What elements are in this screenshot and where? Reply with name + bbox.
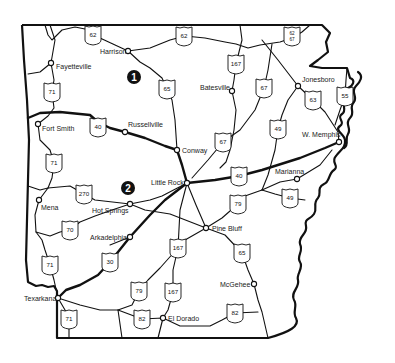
city-dot-icon (203, 225, 208, 230)
city-label: Russellville (128, 121, 163, 128)
city-arkadelphia: Arkadelphia (90, 234, 133, 242)
svg-text:71: 71 (51, 159, 58, 166)
svg-text:67: 67 (220, 138, 227, 145)
route-shield-icon: 49 (270, 120, 286, 139)
city-dot-icon (35, 121, 40, 126)
svg-text:49: 49 (287, 194, 294, 201)
route-shield-icon: 71 (46, 154, 62, 173)
svg-text:270: 270 (79, 190, 90, 197)
city-dot-icon (127, 201, 132, 206)
city-mcgehee: McGehee (220, 281, 257, 288)
svg-text:55: 55 (342, 92, 349, 99)
city-label: Arkadelphia (90, 234, 127, 242)
route-shield-icon: 62 (85, 26, 101, 45)
svg-text:62: 62 (90, 31, 97, 38)
svg-text:65: 65 (239, 249, 246, 256)
svg-text:79: 79 (235, 200, 242, 207)
city-harrison: Harrison (100, 48, 131, 55)
city-label: Jonesboro (302, 76, 335, 83)
route-shield-icon: 40 (231, 167, 247, 186)
city-texarkana: Texarkana (24, 295, 61, 302)
svg-text:67: 67 (289, 37, 295, 42)
city-dot-icon (174, 147, 179, 152)
svg-text:49: 49 (275, 125, 282, 132)
route-shield-icon: 79 (230, 195, 246, 214)
svg-text:40: 40 (236, 172, 243, 179)
svg-text:71: 71 (66, 315, 73, 322)
city-dot-icon (36, 197, 41, 202)
svg-text:30: 30 (107, 258, 114, 265)
city-dot-icon (184, 180, 189, 185)
city-label: Hot Springs (92, 207, 129, 215)
svg-text:62: 62 (181, 32, 188, 39)
city-label: El Dorado (168, 315, 199, 322)
svg-text:82: 82 (232, 309, 239, 316)
city-marianna: Marianna (275, 168, 304, 182)
city-fort-smith: Fort Smith (35, 121, 74, 132)
svg-text:62: 62 (289, 31, 295, 36)
city-label: Pine Bluff (212, 225, 242, 232)
cities: HarrisonFayettevilleBatesvilleJonesboroF… (24, 48, 342, 322)
svg-text:71: 71 (49, 88, 56, 95)
city-el-dorado: El Dorado (160, 315, 199, 322)
route-shield-icon: 82 (134, 310, 150, 329)
city-fayetteville: Fayetteville (48, 60, 91, 71)
city-dot-icon (48, 60, 53, 65)
route-shield-icon: 40 (90, 118, 106, 137)
route-shield-icon: 55 (337, 87, 353, 106)
marker-2: 2 (121, 181, 135, 195)
city-dot-icon (229, 88, 234, 93)
city-label: Mena (41, 204, 59, 211)
route-shield-icon: 270 (76, 185, 92, 204)
mississippi-river (268, 78, 353, 338)
city-label: Fayetteville (56, 63, 92, 71)
svg-text:2: 2 (125, 183, 131, 194)
svg-text:40: 40 (95, 123, 102, 130)
city-batesville: Batesville (200, 84, 235, 94)
city-label: W. Memphis (302, 131, 341, 139)
city-label: Conway (182, 147, 208, 155)
svg-text:79: 79 (136, 287, 143, 294)
route-shield-icon: 167 (228, 55, 244, 74)
city-dot-icon (127, 234, 132, 239)
city-dot-icon (336, 139, 341, 144)
route-shield-icon: 167 (170, 239, 186, 258)
route-shield-icon: 6267 (284, 27, 300, 46)
arkansas-highway-map: 6262626765167676355714067497140270794970… (0, 0, 395, 363)
route-shield-icon: 30 (102, 253, 118, 272)
route-shield-icon: 65 (234, 244, 250, 263)
route-shield-icon: 71 (44, 83, 60, 102)
route-shield-icon: 71 (42, 256, 58, 275)
city-label: Harrison (100, 48, 127, 55)
svg-text:65: 65 (164, 85, 171, 92)
svg-text:82: 82 (139, 315, 146, 322)
route-shield-icon: 62 (176, 27, 192, 46)
svg-text:70: 70 (67, 226, 74, 233)
city-label: Little Rock (151, 179, 184, 186)
city-dot-icon (294, 176, 299, 181)
city-dot-icon (251, 281, 256, 286)
city-dot-icon (122, 129, 127, 134)
route-shield-icon: 71 (61, 310, 77, 329)
city-label: Batesville (200, 84, 230, 91)
city-label: Marianna (275, 168, 304, 175)
city-label: Fort Smith (42, 125, 74, 132)
city-label: Texarkana (24, 295, 56, 302)
city-jonesboro: Jonesboro (295, 76, 334, 89)
city-label: McGehee (220, 281, 250, 288)
route-shield-icon: 67 (256, 79, 272, 98)
route-shield-icon: 167 (165, 283, 181, 302)
marker-1: 1 (127, 70, 141, 84)
city-mena: Mena (36, 197, 58, 211)
svg-text:167: 167 (231, 60, 242, 67)
route-shield-icon: 67 (215, 133, 231, 152)
svg-text:63: 63 (310, 96, 317, 103)
route-shield-icon: 82 (227, 304, 243, 323)
route-shield-icon: 65 (159, 80, 175, 99)
city-dot-icon (295, 83, 300, 88)
svg-text:167: 167 (168, 288, 179, 295)
route-shield-icon: 63 (305, 91, 321, 110)
route-shield-icon: 70 (62, 221, 78, 240)
route-shield-icon: 49 (282, 189, 298, 208)
svg-text:71: 71 (47, 261, 54, 268)
